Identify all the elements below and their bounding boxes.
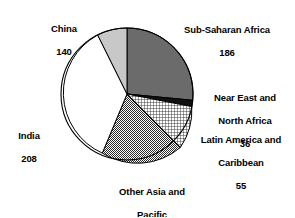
slice-label-sub-saharan-africa: Sub-Saharan Africa 186 [166, 12, 288, 70]
slice-label-name: India [2, 130, 56, 142]
pie-chart: Sub-Saharan Africa 186 Near East and Nor… [0, 0, 295, 217]
slice-label-name-line2: Caribbean [188, 157, 294, 169]
slice-label-name-line2: Pacific [100, 209, 204, 218]
slice-label-name: China [28, 23, 100, 35]
slice-label-value: 186 [166, 47, 288, 59]
slice-label-value: 140 [28, 46, 100, 58]
slice-label-other-asia-pacific: Other Asia and Pacific 167 [100, 174, 204, 217]
slice-label-name: Sub-Saharan Africa [166, 24, 288, 36]
slice-label-china: China 140 [28, 11, 100, 69]
slice-label-name-line1: Near East and [198, 92, 292, 104]
slice-label-value: 208 [2, 153, 56, 165]
slice-label-name-line1: Latin America and [188, 134, 294, 146]
slice-label-name-line1: Other Asia and [100, 186, 204, 198]
slice-label-india: India 208 [2, 118, 56, 176]
